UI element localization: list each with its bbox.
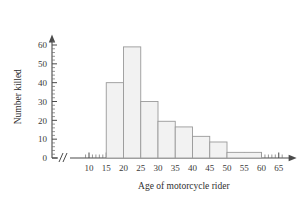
- histogram-bar: [175, 127, 192, 158]
- histogram-bar: [158, 121, 175, 158]
- histogram-bar: [227, 152, 262, 158]
- x-axis-tick-label: 10: [85, 163, 95, 173]
- x-axis-tick-label: 45: [205, 163, 215, 173]
- x-axis-tick-label: 35: [171, 163, 181, 173]
- histogram-figure: 0102030405060101520253035404550556065Age…: [0, 0, 308, 203]
- y-axis-tick-label: 60: [38, 40, 48, 50]
- x-axis-tick-label: 40: [188, 163, 198, 173]
- x-axis-tick-label: 65: [274, 163, 284, 173]
- histogram-bar: [141, 102, 158, 159]
- x-axis-tick-label: 20: [119, 163, 129, 173]
- y-axis-tick-label: 0: [43, 153, 48, 163]
- histogram-bar: [210, 142, 227, 158]
- y-axis-title: Number killed: [13, 69, 23, 124]
- y-axis-tick-label: 30: [38, 97, 48, 107]
- histogram-bar: [124, 47, 141, 158]
- x-axis-title: Age of motorcycle rider: [138, 181, 230, 191]
- y-axis-tick-label: 20: [38, 116, 48, 126]
- x-axis-tick-label: 25: [136, 163, 146, 173]
- y-axis-tick-label: 50: [38, 59, 48, 69]
- histogram-bar: [106, 83, 123, 158]
- histogram-bar: [193, 136, 210, 158]
- x-axis-tick-label: 30: [154, 163, 164, 173]
- x-axis-tick-label: 50: [223, 163, 233, 173]
- x-axis-tick-label: 60: [257, 163, 267, 173]
- x-axis-tick-label: 55: [240, 163, 250, 173]
- x-axis-arrow-icon: [289, 155, 297, 161]
- y-axis-tick-label: 40: [38, 78, 48, 88]
- chart-canvas: 0102030405060101520253035404550556065Age…: [0, 0, 308, 203]
- x-axis-break-icon: [59, 153, 63, 162]
- y-axis-tick-label: 10: [38, 134, 48, 144]
- x-axis-tick-label: 15: [102, 163, 112, 173]
- x-axis-break-icon: [63, 153, 67, 162]
